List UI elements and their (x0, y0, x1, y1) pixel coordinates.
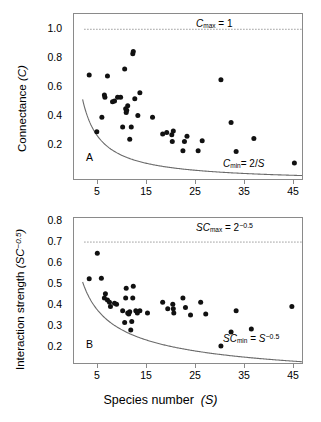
panel-a-ytick-0.4: 0.4 (36, 109, 62, 121)
data-point (170, 139, 175, 144)
panel-b-ytick-0.2: 0.2 (36, 340, 62, 352)
data-point (171, 310, 176, 315)
panel-b-xtick-25: 25 (183, 369, 207, 381)
data-point (196, 148, 201, 153)
data-point (184, 134, 189, 139)
data-point (183, 305, 188, 310)
data-point (137, 90, 142, 95)
panel-b-y-axis-label-symbol: (SC−0.5) (14, 229, 26, 269)
data-point (130, 295, 135, 300)
panel-b-scmin-curve (83, 282, 302, 362)
data-point (94, 129, 99, 134)
panel-b-ytick-0.5: 0.5 (36, 277, 62, 289)
panel-a-xtickmark-15 (146, 180, 147, 184)
panel-b-scmin-annotation: SCmin = S−0.5 (223, 333, 279, 344)
panel-b-xtickmark-25 (195, 364, 196, 368)
data-point (108, 304, 113, 309)
data-point (251, 136, 256, 141)
data-point (124, 286, 129, 291)
panel-b-ytick-0.6: 0.6 (36, 256, 62, 268)
data-point (129, 319, 134, 324)
data-point (120, 308, 125, 313)
data-point (188, 313, 193, 318)
data-point (234, 149, 239, 154)
data-point (102, 95, 107, 100)
data-point (170, 302, 175, 307)
panel-b-ytick-0.4: 0.4 (36, 298, 62, 310)
data-point (289, 304, 294, 309)
x-axis-title-text: Species number (104, 393, 194, 407)
panel-a-xtick-45: 45 (281, 185, 305, 197)
panel-b-letter: B (86, 338, 93, 350)
panel-a-xtick-25: 25 (183, 185, 207, 197)
panel-b-y-axis-label-text: Interaction strength (14, 272, 26, 370)
figure-container: Connectance (C) 1.0 0.8 0.6 0.4 0.2 5 15 (0, 0, 321, 422)
data-point (124, 108, 129, 113)
panel-a-ytick-0.6: 0.6 (36, 80, 62, 92)
panel-a-cmin-curve (83, 99, 302, 175)
panel-b-y-axis-label: Interaction strength (SC−0.5) (14, 229, 26, 370)
data-point (122, 320, 127, 325)
data-point (137, 308, 142, 313)
data-point (182, 139, 187, 144)
panel-a-y-axis-label-text: Connectance (16, 84, 28, 152)
data-point (129, 125, 134, 130)
data-point (135, 113, 140, 118)
data-point (229, 120, 234, 125)
data-point (118, 95, 123, 100)
data-point (99, 115, 104, 120)
data-point (218, 343, 223, 348)
data-point (105, 73, 110, 78)
panel-a-xtick-35: 35 (232, 185, 256, 197)
data-point (234, 308, 239, 313)
x-axis-title-symbol: (S) (201, 393, 218, 407)
data-point (203, 311, 208, 316)
data-point (150, 115, 155, 120)
x-axis-title: Species number (S) (0, 393, 321, 407)
panel-a-ytick-0.2: 0.2 (36, 138, 62, 150)
data-point (131, 284, 136, 289)
data-point (125, 103, 130, 108)
data-point (128, 327, 133, 332)
data-point (180, 148, 185, 153)
panel-a: Connectance (C) 1.0 0.8 0.6 0.4 0.2 5 15 (0, 0, 321, 200)
data-point (198, 300, 203, 305)
panel-b-scmax-annotation: SCmax = 2−0.5 (196, 222, 253, 233)
panel-a-cmin-annotation: Cmin= 2/S (223, 158, 264, 169)
panel-b-xtickmark-35 (244, 364, 245, 368)
panel-a-letter: A (86, 151, 93, 163)
panel-a-y-axis-label: Connectance (C) (16, 65, 28, 152)
panel-b: Interaction strength (SC−0.5) 0.8 0.7 0.… (0, 205, 321, 385)
panel-a-y-axis-label-symbol: (C) (16, 65, 28, 81)
panel-a-xtickmark-25 (195, 180, 196, 184)
data-point (160, 300, 165, 305)
data-point (87, 73, 92, 78)
panel-a-data-points (87, 49, 297, 166)
panel-b-ytick-0.7: 0.7 (36, 235, 62, 247)
panel-a-xtickmark-5 (97, 180, 98, 184)
panel-a-ytick-0.8: 0.8 (36, 51, 62, 63)
panel-b-xtickmark-45 (293, 364, 294, 368)
data-point (127, 137, 132, 142)
data-point (249, 326, 254, 331)
data-point (200, 138, 205, 143)
panel-b-xtick-45: 45 (281, 369, 305, 381)
data-point (103, 291, 108, 296)
data-point (131, 49, 136, 54)
panel-b-ytick-0.3: 0.3 (36, 319, 62, 331)
panel-a-plot-area (73, 13, 303, 180)
data-point (165, 306, 170, 311)
data-point (122, 67, 127, 72)
panel-a-ytick-1.0: 1.0 (36, 22, 62, 34)
data-point (127, 309, 132, 314)
panel-b-xtick-35: 35 (232, 369, 256, 381)
data-point (114, 302, 119, 307)
panel-b-xtick-5: 5 (85, 369, 109, 381)
panel-b-xtickmark-5 (97, 364, 98, 368)
panel-a-xtick-15: 15 (134, 185, 158, 197)
data-point (145, 310, 150, 315)
panel-a-svg (74, 14, 302, 179)
data-point (218, 77, 223, 82)
data-point (171, 128, 176, 133)
data-point (95, 251, 100, 256)
